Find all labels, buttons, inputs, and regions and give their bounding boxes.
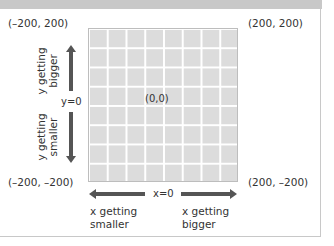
corner-bottom-left-label: (–200, –200) — [8, 176, 73, 188]
x-bigger-caption-line2: bigger — [182, 218, 229, 231]
y-smaller-caption: y getting smaller — [35, 103, 61, 171]
x-bigger-caption-line1: x getting — [182, 205, 229, 218]
x-zero-label: x=0 — [153, 188, 174, 199]
y-zero-label: y=0 — [61, 96, 82, 107]
x-smaller-caption: x getting smaller — [90, 205, 137, 231]
corner-top-left-label: (–200, 200) — [8, 17, 68, 29]
y-increasing-arrow-icon — [69, 51, 73, 91]
x-increasing-arrow-icon — [181, 192, 231, 196]
corner-top-right-label: (200, 200) — [248, 17, 303, 29]
origin-label: (0,0) — [145, 93, 169, 104]
x-smaller-caption-line2: smaller — [90, 218, 137, 231]
top-band — [0, 0, 322, 9]
y-bigger-caption-line1: y getting — [35, 37, 47, 105]
y-bigger-caption-line2: bigger — [47, 37, 59, 105]
x-bigger-caption: x getting bigger — [182, 205, 229, 231]
y-bigger-caption: y getting bigger — [35, 37, 61, 105]
y-decreasing-arrow-icon — [69, 112, 73, 157]
x-smaller-caption-line1: x getting — [90, 205, 137, 218]
x-decreasing-arrow-icon — [95, 192, 145, 196]
corner-bottom-right-label: (200, –200) — [248, 176, 308, 188]
y-smaller-caption-line1: y getting — [35, 103, 47, 171]
y-smaller-caption-line2: smaller — [47, 103, 59, 171]
coordinate-grid — [88, 28, 238, 182]
